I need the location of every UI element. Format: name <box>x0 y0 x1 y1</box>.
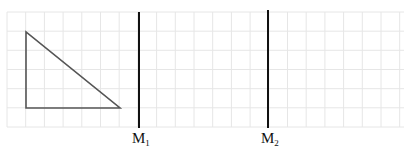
mirror-m1-label: M1 <box>132 131 150 148</box>
mirror-m2-label: M2 <box>261 131 279 148</box>
grid-diagram <box>0 0 404 150</box>
grid-lines <box>7 12 404 127</box>
mirror-m2-label-subscript: 2 <box>274 138 279 148</box>
mirror-m1-label-letter: M <box>132 130 145 146</box>
mirror-m2-label-letter: M <box>261 130 274 146</box>
mirror-m1-label-subscript: 1 <box>145 138 150 148</box>
